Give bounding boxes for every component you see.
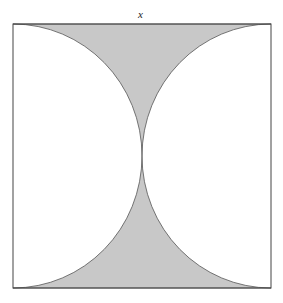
shaded-bottom-region (13, 156, 271, 288)
square-diagram (0, 0, 283, 303)
shaded-top-region (13, 24, 271, 156)
